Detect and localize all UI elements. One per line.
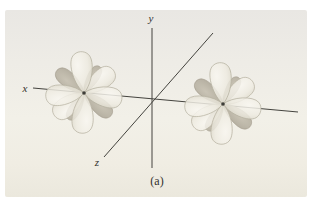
figure-caption: (a)	[0, 174, 314, 189]
x-axis-label: x	[22, 82, 28, 94]
figure-stage: x y z (a)	[0, 0, 314, 208]
d-orbital-left	[45, 51, 124, 134]
z-axis-label: z	[94, 156, 100, 168]
d-orbital-right	[184, 62, 263, 145]
y-axis-label: y	[148, 12, 154, 24]
